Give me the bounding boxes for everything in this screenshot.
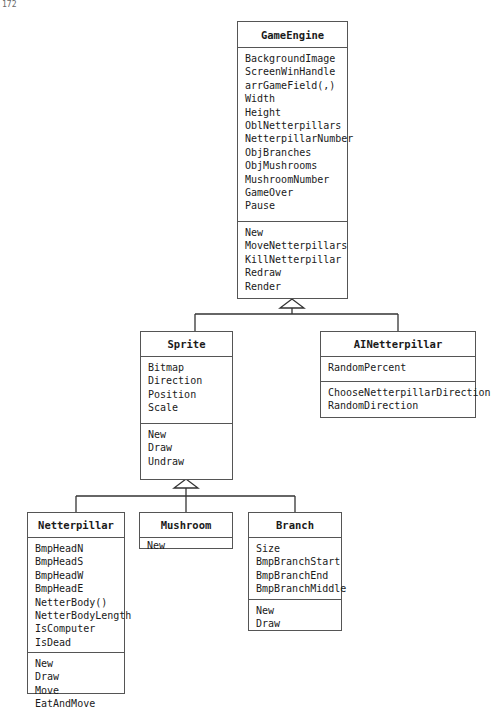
attribute: Bitmap xyxy=(148,361,232,374)
attribute: NetterpillarNumber xyxy=(245,132,347,145)
attributes-section: RandomPercent xyxy=(321,357,475,381)
method: KillNetterpillar xyxy=(245,253,347,266)
method: New xyxy=(148,428,232,441)
attribute: BmpBranchEnd xyxy=(256,569,341,582)
generalization-arrow-icon xyxy=(174,479,198,488)
method: Undraw xyxy=(148,455,232,468)
class-name: Branch xyxy=(249,513,341,538)
methods-section: New Draw xyxy=(249,599,341,631)
attribute: Direction xyxy=(148,374,232,387)
method: New xyxy=(147,539,232,552)
method: ChooseNetterpillarDirection xyxy=(328,386,475,399)
attributes-section: Bitmap Direction Position Scale xyxy=(141,357,232,423)
attribute: arrGameField(,) xyxy=(245,79,347,92)
method: EatAndMove xyxy=(35,697,124,710)
class-netterpillar: Netterpillar BmpHeadN BmpHeadS BmpHeadW … xyxy=(27,512,125,694)
method: RandomDirection xyxy=(328,399,475,412)
attribute: BmpBranchMiddle xyxy=(256,582,341,595)
class-sprite: Sprite Bitmap Direction Position Scale N… xyxy=(140,331,233,480)
method: MoveNetterpillars xyxy=(245,239,347,252)
attribute: GameOver xyxy=(245,186,347,199)
attribute: ScreenWinHandle xyxy=(245,65,347,78)
method: Draw xyxy=(148,441,232,454)
attribute: IsComputer xyxy=(35,622,124,635)
attribute: BackgroundImage xyxy=(245,52,347,65)
method: New xyxy=(256,604,341,617)
method: Redraw xyxy=(245,266,347,279)
class-name: AINetterpillar xyxy=(321,332,475,357)
method: Draw xyxy=(256,617,341,630)
attributes-section: Size BmpBranchStart BmpBranchEnd BmpBran… xyxy=(249,538,341,599)
class-gameengine: GameEngine BackgroundImage ScreenWinHand… xyxy=(237,21,348,299)
methods-section: New MoveNetterpillars KillNetterpillar R… xyxy=(238,221,347,293)
attribute: BmpBranchStart xyxy=(256,555,341,568)
method: New xyxy=(245,226,347,239)
class-ainetterpillar: AINetterpillar RandomPercent ChooseNette… xyxy=(320,331,476,418)
attribute: NetterBody() xyxy=(35,596,124,609)
method: Move xyxy=(35,684,124,697)
attribute: OblNetterpillars xyxy=(245,119,347,132)
methods-section: New Draw Move EatAndMove xyxy=(28,652,124,711)
class-name: GameEngine xyxy=(238,22,347,48)
attribute: ObjBranches xyxy=(245,146,347,159)
attribute: IsDead xyxy=(35,636,124,649)
class-branch: Branch Size BmpBranchStart BmpBranchEnd … xyxy=(248,512,342,631)
attribute: BmpHeadE xyxy=(35,582,124,595)
methods-section: New Draw Undraw xyxy=(141,423,232,468)
attribute: Pause xyxy=(245,199,347,212)
attribute: Scale xyxy=(148,401,232,414)
methods-section: ChooseNetterpillarDirection RandomDirect… xyxy=(321,381,475,413)
method: Draw xyxy=(35,670,124,683)
attribute: ObjMushrooms xyxy=(245,159,347,172)
attribute: RandomPercent xyxy=(328,361,475,374)
generalization-arrow-icon xyxy=(280,299,304,308)
attribute: Position xyxy=(148,388,232,401)
attributes-section: BmpHeadN BmpHeadS BmpHeadW BmpHeadE Nett… xyxy=(28,538,124,652)
attributes-section: BackgroundImage ScreenWinHandle arrGameF… xyxy=(238,48,347,221)
attribute: BmpHeadS xyxy=(35,555,124,568)
class-name: Sprite xyxy=(141,332,232,357)
attribute: BmpHeadN xyxy=(35,542,124,555)
attribute: Size xyxy=(256,542,341,555)
class-mushroom: Mushroom New xyxy=(139,512,233,549)
method: Render xyxy=(245,280,347,293)
attribute: MushroomNumber xyxy=(245,173,347,186)
attribute: BmpHeadW xyxy=(35,569,124,582)
class-name: Netterpillar xyxy=(28,513,124,538)
methods-section: New xyxy=(140,538,232,552)
attribute: NetterBodyLength xyxy=(35,609,124,622)
method: New xyxy=(35,657,124,670)
class-name: Mushroom xyxy=(140,513,232,538)
attribute: Width xyxy=(245,92,347,105)
attribute: Height xyxy=(245,106,347,119)
